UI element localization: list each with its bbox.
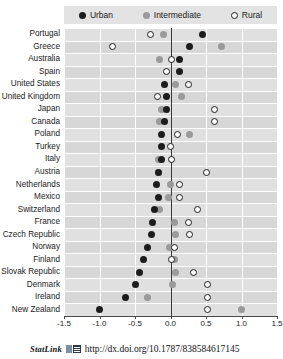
- x-tick-label: -0.5: [128, 319, 142, 328]
- x-tick-label: 1.0: [236, 319, 247, 328]
- filled-gray-circle-icon: [143, 12, 150, 19]
- data-point-intermediate: [172, 81, 179, 88]
- category-label: Poland: [35, 128, 61, 140]
- data-point-urban: [199, 31, 206, 38]
- category-label: New Zealand: [12, 304, 60, 316]
- data-point-rural: [204, 306, 211, 313]
- chart-figure: Urban Intermediate Rural PortugalGreeceA…: [0, 0, 283, 359]
- category-label: Spain: [39, 66, 60, 78]
- plot-area: PortugalGreeceAustraliaSpainUnited State…: [0, 28, 283, 318]
- legend-label-urban: Urban: [90, 11, 113, 20]
- data-point-rural: [185, 219, 192, 226]
- data-point-rural: [109, 43, 116, 50]
- category-label: Mexico: [34, 191, 60, 203]
- filled-dark-circle-icon: [79, 12, 86, 19]
- x-gridline: [100, 28, 101, 316]
- data-point-urban: [155, 169, 162, 176]
- data-point-urban: [158, 156, 165, 163]
- x-tick-label: -1.5: [57, 319, 71, 328]
- data-point-rural: [176, 194, 183, 201]
- x-tick-label: 1.5: [271, 319, 282, 328]
- data-point-intermediate: [186, 131, 193, 138]
- data-point-rural: [185, 81, 192, 88]
- data-point-urban: [122, 294, 129, 301]
- data-point-urban: [158, 131, 165, 138]
- category-label: Austria: [35, 166, 60, 178]
- data-point-urban: [148, 231, 155, 238]
- open-circle-icon: [231, 12, 238, 19]
- category-label: Switzerland: [18, 204, 60, 216]
- data-point-rural: [194, 206, 201, 213]
- data-point-rural: [168, 56, 175, 63]
- data-point-urban: [136, 269, 143, 276]
- data-point-urban: [144, 244, 151, 251]
- category-label: Australia: [28, 53, 60, 65]
- data-point-intermediate: [171, 219, 178, 226]
- legend-label-intermediate: Intermediate: [154, 11, 201, 20]
- legend-item-intermediate: Intermediate: [143, 11, 201, 20]
- statlink-label: StatLink: [30, 344, 62, 354]
- category-label: Italy: [45, 153, 60, 165]
- data-point-urban: [163, 106, 170, 113]
- data-point-intermediate: [172, 231, 179, 238]
- data-point-intermediate: [238, 306, 245, 313]
- category-label: Norway: [32, 241, 60, 253]
- category-label: Ireland: [35, 291, 60, 303]
- category-label: Canada: [31, 116, 60, 128]
- category-label: Portugal: [30, 28, 61, 40]
- data-point-intermediate: [172, 269, 179, 276]
- category-label: Greece: [33, 41, 60, 53]
- data-point-urban: [132, 281, 139, 288]
- legend-label-rural: Rural: [242, 11, 262, 20]
- category-label: Finland: [33, 254, 60, 266]
- data-point-rural: [147, 31, 154, 38]
- data-point-urban: [153, 181, 160, 188]
- data-point-urban: [161, 81, 168, 88]
- legend-item-rural: Rural: [231, 11, 262, 20]
- category-label: Czech Republic: [3, 229, 60, 241]
- category-label: Japan: [38, 103, 60, 115]
- data-point-rural: [186, 231, 193, 238]
- category-label: United States: [11, 78, 60, 90]
- x-axis: -1.5-1.0-0.50.00.51.01.5: [64, 316, 277, 330]
- x-tick-label: 0.0: [165, 319, 176, 328]
- data-point-rural: [211, 106, 218, 113]
- data-point-rural: [176, 181, 183, 188]
- data-point-urban: [140, 256, 147, 263]
- data-point-rural: [174, 131, 181, 138]
- x-tick-label: 0.5: [200, 319, 211, 328]
- figure-footer: StatLink http://dx.doi.org/10.1787/83858…: [0, 341, 283, 357]
- data-point-rural: [168, 156, 175, 163]
- data-point-rural: [171, 244, 178, 251]
- doi-url[interactable]: http://dx.doi.org/10.1787/838584617145: [85, 344, 240, 354]
- spreadsheet-icon: [66, 345, 81, 353]
- category-label: France: [35, 216, 60, 228]
- data-point-urban: [155, 194, 162, 201]
- category-label: Denmark: [27, 279, 60, 291]
- data-point-intermediate: [156, 56, 163, 63]
- chart-legend: Urban Intermediate Rural: [64, 6, 277, 24]
- category-label: United Kingdom: [2, 91, 60, 103]
- data-point-urban: [149, 219, 156, 226]
- category-axis-labels: PortugalGreeceAustraliaSpainUnited State…: [0, 28, 63, 316]
- data-point-rural: [204, 294, 211, 301]
- data-point-intermediate: [144, 294, 151, 301]
- data-point-intermediate: [167, 181, 174, 188]
- category-label: Netherlands: [16, 179, 60, 191]
- data-point-intermediate: [160, 31, 167, 38]
- plot-panel: [64, 28, 277, 316]
- data-point-urban: [176, 56, 183, 63]
- data-point-urban: [96, 306, 103, 313]
- data-point-rural: [204, 281, 211, 288]
- category-label: Slovak Republic: [1, 266, 60, 278]
- data-point-rural: [203, 169, 210, 176]
- legend-item-urban: Urban: [79, 11, 113, 20]
- x-gridline: [64, 28, 65, 316]
- data-point-intermediate: [169, 281, 176, 288]
- category-label: Turkey: [35, 141, 60, 153]
- x-gridline: [242, 28, 243, 316]
- data-point-intermediate: [165, 194, 172, 201]
- x-tick-label: -1.0: [93, 319, 107, 328]
